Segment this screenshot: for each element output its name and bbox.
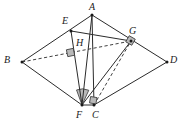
vertex-dot-A: [91, 14, 94, 17]
vertex-label-A: A: [89, 2, 95, 12]
vertex-label-D: D: [170, 55, 177, 65]
vertex-label-G: G: [129, 26, 136, 36]
segment-FG: [82, 41, 131, 105]
right-angle-mark-h: [66, 48, 74, 56]
vertex-label-F: F: [76, 110, 82, 120]
vertex-label-E: E: [62, 16, 68, 26]
vertex-dots-group: [21, 14, 169, 107]
segment-BF: [22, 62, 82, 105]
segment-CG-dashed: [94, 41, 131, 105]
vertex-label-C: C: [92, 110, 99, 120]
vertex-dot-D: [166, 61, 169, 64]
vertex-dot-C: [93, 104, 96, 107]
segments-group: [22, 15, 167, 105]
vertex-dot-E: [70, 30, 73, 33]
vertex-dot-F: [81, 104, 84, 107]
right-angle-mark-c: [89, 96, 97, 104]
vertex-label-B: B: [4, 55, 10, 65]
geometry-figure: A B C D E F G H: [0, 0, 184, 128]
vertex-label-H: H: [76, 38, 83, 48]
vertex-dot-B: [21, 61, 24, 64]
vertex-dot-G: [130, 40, 133, 43]
segment-CD: [94, 62, 167, 105]
